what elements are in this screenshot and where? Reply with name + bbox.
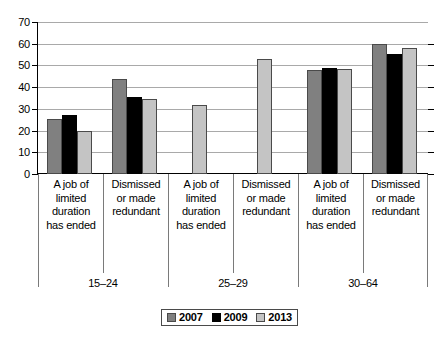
legend-label: 2007 xyxy=(179,312,203,323)
legend-label: 2013 xyxy=(268,312,292,323)
category-label-line: duration xyxy=(169,205,233,219)
category-label-line: Dismissed xyxy=(234,178,298,192)
bar-2007 xyxy=(47,119,62,174)
category-label-line: redundant xyxy=(104,205,168,219)
category-labels: A job of limited duration has ended Dism… xyxy=(38,174,428,273)
y-tick-mark-right xyxy=(428,87,434,88)
category-label: A job of limited duration has ended xyxy=(169,178,233,232)
bar-group xyxy=(363,22,428,174)
age-group-label: 25–29 xyxy=(168,273,298,295)
age-group-label: 30–64 xyxy=(298,273,428,295)
bar-2013 xyxy=(337,69,352,174)
y-tick-mark-right xyxy=(428,174,434,175)
legend-label: 2009 xyxy=(224,312,248,323)
category-label: Dismissed or made redundant xyxy=(104,178,168,219)
category-label-line: duration xyxy=(299,205,363,219)
category-cell: Dismissed or made redundant xyxy=(363,174,428,273)
y-tick-mark-right xyxy=(428,65,434,66)
y-tick-mark-right xyxy=(428,152,434,153)
bar-2009 xyxy=(322,68,337,174)
category-label-line: limited xyxy=(169,192,233,206)
category-cell: A job of limited duration has ended xyxy=(298,174,363,273)
plot-area xyxy=(38,22,428,174)
bar-2007 xyxy=(112,79,127,175)
bar-group xyxy=(168,22,233,174)
category-label-line: or made xyxy=(234,192,298,206)
legend-swatch-icon xyxy=(256,313,265,322)
bar-2007 xyxy=(372,44,387,174)
bar-2013 xyxy=(192,105,207,175)
category-label-line: has ended xyxy=(299,219,363,233)
y-axis-labels: 70 60 50 40 30 20 10 0 xyxy=(0,0,30,340)
category-cell: A job of limited duration has ended xyxy=(38,174,103,273)
bar-2007 xyxy=(307,70,322,174)
category-label-line: A job of xyxy=(299,178,363,192)
bar-2009 xyxy=(62,115,77,174)
category-cell: Dismissed or made redundant xyxy=(103,174,168,273)
bar-group xyxy=(233,22,298,174)
bar-group xyxy=(298,22,363,174)
category-label-line: A job of xyxy=(39,178,103,192)
y-tick-mark-right xyxy=(428,44,434,45)
y-tick-mark-right xyxy=(428,109,434,110)
legend-swatch-icon xyxy=(212,313,221,322)
y-tick-label: 70 xyxy=(0,17,30,28)
y-tick-label: 50 xyxy=(0,60,30,71)
chart-legend: 2007 2009 2013 xyxy=(161,309,298,326)
bar-2013 xyxy=(402,48,417,174)
bar-group xyxy=(38,22,103,174)
bar-2013 xyxy=(257,59,272,174)
bar-group xyxy=(103,22,168,174)
category-label-line: or made xyxy=(104,192,168,206)
category-label-line: limited xyxy=(299,192,363,206)
category-label-line: duration xyxy=(39,205,103,219)
category-label-line: A job of xyxy=(169,178,233,192)
y-tick-label: 0 xyxy=(0,169,30,180)
bar-2009 xyxy=(387,54,402,175)
legend-item-2007: 2007 xyxy=(167,312,203,323)
y-tick-label: 30 xyxy=(0,104,30,115)
bar-2013 xyxy=(142,99,157,174)
age-group-separator xyxy=(427,261,428,287)
category-cell: A job of limited duration has ended xyxy=(168,174,233,273)
y-tick-label: 20 xyxy=(0,126,30,137)
category-label: Dismissed or made redundant xyxy=(234,178,298,219)
legend-item-2009: 2009 xyxy=(212,312,248,323)
y-tick-label: 60 xyxy=(0,39,30,50)
category-label-line: redundant xyxy=(364,205,427,219)
category-label-line: Dismissed xyxy=(364,178,427,192)
legend-swatch-icon xyxy=(167,313,176,322)
age-group-label: 15–24 xyxy=(38,273,168,295)
category-label: A job of limited duration has ended xyxy=(39,178,103,232)
category-label-line: or made xyxy=(364,192,427,206)
category-label-line: Dismissed xyxy=(104,178,168,192)
category-label-line: limited xyxy=(39,192,103,206)
category-label: Dismissed or made redundant xyxy=(364,178,427,219)
category-label-line: redundant xyxy=(234,205,298,219)
legend-item-2013: 2013 xyxy=(256,312,292,323)
y-tick-label: 40 xyxy=(0,82,30,93)
bar-chart: 70 60 50 40 30 20 10 0 xyxy=(0,0,442,340)
category-label-line: has ended xyxy=(39,219,103,233)
category-label: A job of limited duration has ended xyxy=(299,178,363,232)
y-tick-label: 10 xyxy=(0,147,30,158)
category-cell: Dismissed or made redundant xyxy=(233,174,298,273)
bar-2013 xyxy=(77,131,92,174)
bar-2009 xyxy=(127,97,142,174)
y-tick-mark-right xyxy=(428,131,434,132)
age-group-labels: 15–24 25–29 30–64 xyxy=(38,273,428,295)
category-label-line: has ended xyxy=(169,219,233,233)
